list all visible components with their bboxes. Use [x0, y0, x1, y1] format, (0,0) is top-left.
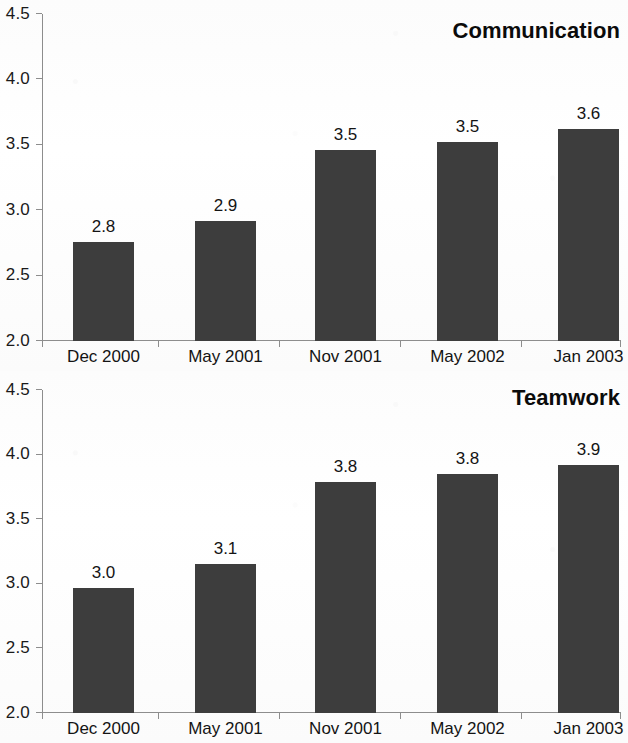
x-axis-category-label: Dec 2000	[49, 347, 159, 367]
y-axis-tick-label: 4.5	[6, 380, 30, 400]
bar-value-label: 3.8	[315, 457, 376, 477]
bar	[73, 242, 134, 341]
y-axis-tick-label: 2.0	[6, 703, 30, 723]
bar	[315, 482, 376, 713]
y-axis-tick-label: 2.5	[6, 265, 30, 285]
x-axis-category-label: May 2002	[413, 347, 523, 367]
y-axis-tick: 2.5	[36, 275, 42, 276]
bar-value-label: 3.5	[315, 125, 376, 145]
y-axis-tick: 3.0	[36, 583, 42, 584]
bar	[558, 129, 619, 341]
y-axis-line	[42, 14, 43, 341]
bar	[315, 150, 376, 341]
plot-area-teamwork: 4.54.03.53.02.52.0 3.03.13.83.83.9 Dec 2…	[42, 390, 620, 713]
y-axis-tick: 3.5	[36, 144, 42, 145]
chart-panel-teamwork: Teamwork 4.54.03.53.02.52.0 3.03.13.83.8…	[0, 371, 628, 743]
bar	[195, 221, 256, 341]
bar-value-label: 3.6	[558, 104, 619, 124]
bar	[437, 142, 498, 341]
y-axis-tick: 3.5	[36, 518, 42, 519]
x-axis-category-label: Nov 2001	[291, 347, 401, 367]
x-axis-category-label: Dec 2000	[49, 719, 159, 739]
x-axis-category-label: May 2001	[171, 719, 281, 739]
y-axis-tick-label: 2.0	[6, 331, 30, 351]
y-axis-tick: 2.5	[36, 647, 42, 648]
y-axis-tick: 4.5	[36, 13, 42, 14]
bar	[558, 465, 619, 713]
x-axis-tick	[42, 341, 43, 347]
y-axis-tick-label: 4.0	[6, 444, 30, 464]
y-axis-tick: 4.5	[36, 389, 42, 390]
y-axis-tick-label: 3.5	[6, 134, 30, 154]
bar	[73, 588, 134, 713]
bar-value-label: 3.0	[73, 563, 134, 583]
chart-panel-communication: Communication 4.54.03.53.02.52.0 2.82.93…	[0, 0, 628, 371]
y-axis-tick-label: 4.5	[6, 4, 30, 24]
chart-page: Communication 4.54.03.53.02.52.0 2.82.93…	[0, 0, 628, 743]
y-axis-tick-label: 3.0	[6, 200, 30, 220]
y-axis-tick-label: 3.5	[6, 509, 30, 529]
y-axis-tick-label: 2.5	[6, 638, 30, 658]
x-axis-category-label: May 2001	[171, 347, 281, 367]
y-axis-tick-label: 4.0	[6, 69, 30, 89]
bar-value-label: 3.5	[437, 117, 498, 137]
bar-value-label: 2.9	[195, 196, 256, 216]
y-axis-line	[42, 390, 43, 713]
y-axis-tick: 4.0	[36, 454, 42, 455]
x-axis-category-label: May 2002	[413, 719, 523, 739]
y-axis-tick: 3.0	[36, 209, 42, 210]
y-axis-tick: 4.0	[36, 78, 42, 79]
bar-value-label: 3.9	[558, 440, 619, 460]
bar	[437, 474, 498, 713]
bar-value-label: 2.8	[73, 217, 134, 237]
bar	[195, 564, 256, 713]
x-axis-category-label: Jan 2003	[534, 347, 628, 367]
bar-value-label: 3.8	[437, 449, 498, 469]
x-axis-tick	[42, 713, 43, 719]
plot-area-communication: 4.54.03.53.02.52.0 2.82.93.53.53.6 Dec 2…	[42, 14, 620, 341]
y-axis-tick-label: 3.0	[6, 573, 30, 593]
x-axis-category-label: Nov 2001	[291, 719, 401, 739]
bar-value-label: 3.1	[195, 539, 256, 559]
x-axis-category-label: Jan 2003	[534, 719, 628, 739]
